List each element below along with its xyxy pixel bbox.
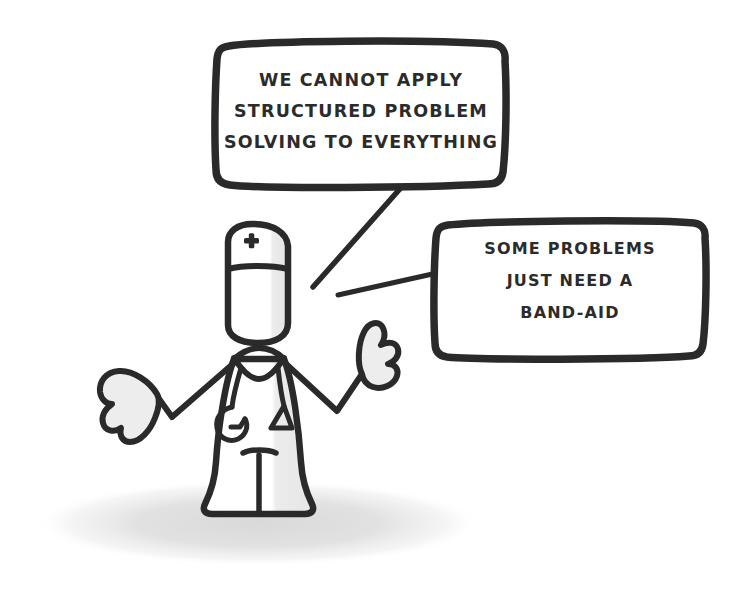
bubble-1-line-3: SOLVING TO EVERYTHING <box>224 132 498 152</box>
bubble-1-line-1: WE CANNOT APPLY <box>259 70 463 90</box>
bubble-2-line-3: BAND-AID <box>520 303 619 322</box>
character-figure <box>100 224 398 514</box>
bubble-2-line-2: JUST NEED A <box>506 271 634 290</box>
character-left-hand <box>100 371 159 442</box>
speech-bubble-right: SOME PROBLEMS JUST NEED A BAND-AID <box>338 221 706 359</box>
speech-bubble-right-tail <box>338 273 437 295</box>
bubble-1-line-2: STRUCTURED PROBLEM <box>234 101 488 121</box>
bubble-2-line-1: SOME PROBLEMS <box>484 239 656 258</box>
character-right-hand <box>359 323 399 388</box>
cartoon-illustration: WE CANNOT APPLY STRUCTURED PROBLEM SOLVI… <box>0 0 738 597</box>
cartoon-scene: WE CANNOT APPLY STRUCTURED PROBLEM SOLVI… <box>0 0 738 597</box>
character-cap-band <box>228 266 288 269</box>
character-leg-split-top <box>243 450 276 453</box>
speech-bubble-top-left-tail <box>313 182 406 287</box>
